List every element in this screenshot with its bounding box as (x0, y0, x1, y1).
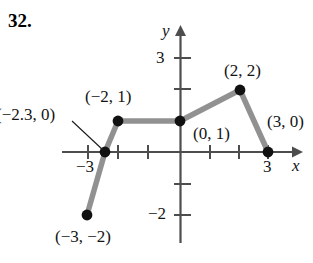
point-label-0-1: (0, 1) (193, 125, 230, 142)
graph-figure: 32. (0, 0, 313, 263)
point-label-2-2: (2, 2) (224, 62, 261, 79)
point-0-1 (175, 116, 186, 127)
point-neg2-1 (113, 116, 124, 127)
tick-label-x-neg3: −3 (76, 158, 94, 175)
tick-label-y-3: 3 (156, 49, 165, 66)
tick-label-x-3: 3 (263, 158, 272, 175)
point-label-neg2_3-0: (−2.3, 0) (0, 106, 55, 123)
point-label-neg3-neg2: (−3, −2) (55, 228, 111, 245)
point-2-2 (235, 85, 246, 96)
point-label-3-0: (3, 0) (267, 113, 304, 130)
point-3-0 (263, 147, 274, 158)
coordinate-plane-svg (0, 0, 313, 263)
y-axis-ticks (174, 58, 191, 215)
y-axis-arrowhead (175, 25, 186, 36)
point-label-neg2-1: (−2, 1) (85, 88, 131, 105)
y-axis-label: y (162, 22, 170, 39)
point-neg3-neg2 (82, 210, 93, 221)
x-axis-label: x (292, 157, 300, 174)
tick-label-y-neg2: −2 (148, 205, 166, 222)
